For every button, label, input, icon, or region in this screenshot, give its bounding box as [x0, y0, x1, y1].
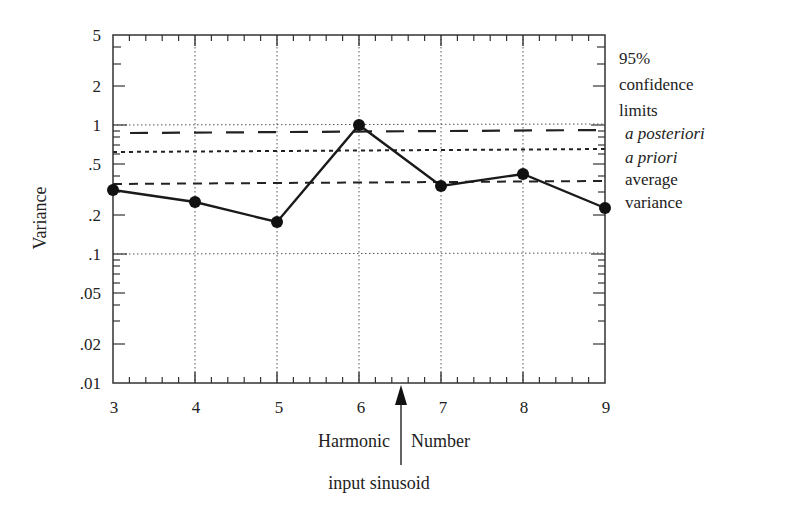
legend-heading: 95%: [619, 49, 650, 68]
x-tick-label: 8: [520, 398, 529, 417]
x-tick-labels: 3 4 5 6 7 8 9: [110, 398, 611, 417]
input-sinusoid-arrow-icon: [395, 385, 407, 465]
legend-heading: confidence: [619, 75, 694, 94]
legend-average-variance: average: [625, 170, 678, 189]
x-axis-label-right: Number: [411, 431, 470, 451]
legend-a-posteriori: a posteriori: [625, 124, 705, 143]
y-tick-label: .5: [88, 155, 101, 174]
data-point-3: [107, 184, 119, 196]
y-tick-label: .01: [80, 374, 101, 393]
legend: 95% confidence limits a posteriori a pri…: [619, 49, 705, 212]
y-tick-label: 2: [93, 77, 102, 96]
input-sinusoid-annotation: input sinusoid: [328, 473, 430, 493]
x-axis-label-left: Harmonic: [318, 431, 390, 451]
x-tick-label: 4: [192, 398, 201, 417]
x-tick-label: 5: [275, 398, 284, 417]
x-tick-label: 7: [439, 398, 448, 417]
x-tick-label: 6: [357, 398, 366, 417]
y-axis-label: Variance: [30, 187, 50, 250]
y-tick-label: 1: [93, 116, 102, 135]
y-tick-label: 5: [93, 26, 102, 45]
x-tick-label: 9: [602, 398, 611, 417]
data-point-5: [271, 216, 283, 228]
data-point-4: [189, 196, 201, 208]
data-point-6: [353, 119, 365, 131]
variance-chart: 5 2 1 .5 .2 .1 .05 .02 .01 3 4 5 6 7 8 9…: [0, 0, 785, 511]
y-tick-label: .2: [88, 206, 101, 225]
data-point-7: [435, 180, 447, 192]
y-tick-labels: 5 2 1 .5 .2 .1 .05 .02 .01: [80, 26, 101, 393]
legend-average-variance: variance: [625, 193, 683, 212]
vertical-gridlines: [195, 35, 523, 383]
x-tick-label: 3: [110, 398, 119, 417]
legend-heading: limits: [619, 101, 658, 120]
y-tick-label: .05: [80, 284, 101, 303]
y-tick-label: .02: [80, 335, 101, 354]
legend-a-priori: a priori: [625, 148, 678, 167]
data-point-8: [517, 168, 529, 180]
y-tick-label: .1: [88, 245, 101, 264]
data-point-9: [599, 202, 611, 214]
